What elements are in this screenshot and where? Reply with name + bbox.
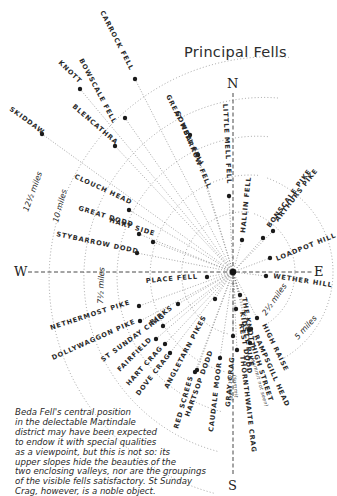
sight-line (170, 272, 233, 353)
summit-dot (123, 116, 127, 120)
fell-label: PLACE FELL (145, 272, 198, 285)
summit-dot (261, 236, 265, 240)
summit-dot (218, 356, 222, 360)
diagram-title: Principal Fells (184, 44, 287, 60)
description-note: Beda Fell's central position in the dele… (15, 408, 245, 496)
fell-label: CLOUCH HEAD (73, 173, 133, 207)
sight-line (139, 234, 233, 272)
sight-line (220, 272, 233, 358)
fell-label: HALLIN FELL (239, 176, 253, 233)
compass-east: E (314, 264, 324, 279)
sight-line (233, 258, 270, 272)
summit-dot (213, 297, 217, 301)
fell-label: SKIDDAW (8, 105, 46, 136)
viewpoint-marker (230, 269, 236, 275)
summit-dot (176, 302, 180, 306)
diagram-stage: CARROCK FELLBOWSCALE FELLKNOTTBLENCATHRA… (0, 0, 337, 496)
summit-dot (78, 87, 82, 91)
note-line: Crag, however, is a noble object. (15, 487, 245, 496)
sight-line (125, 118, 233, 272)
ring-label: 7½ miles (96, 267, 106, 304)
summit-dot (163, 342, 167, 346)
fell-label: BIRKS (148, 304, 174, 327)
summit-dot (137, 304, 141, 308)
summit-dot (238, 293, 242, 297)
fell-label: ARTHURS PIKE (273, 167, 319, 223)
ring-label: 5 miles (293, 314, 319, 342)
summit-dot (264, 274, 268, 278)
sight-line (153, 242, 233, 272)
summit-dot (227, 194, 231, 198)
sight-line (129, 210, 233, 272)
summit-dot (193, 370, 197, 374)
fell-label: LOADPOT HILL (275, 231, 337, 263)
summit-dot (240, 238, 244, 242)
fell-label: STYBARROW DODD (56, 230, 140, 255)
summit-dot (138, 319, 142, 323)
summit-dot (255, 316, 259, 320)
summit-dot (205, 275, 209, 279)
summit-dot (133, 77, 137, 81)
fell-label: GOWBARROW FELL (173, 110, 213, 190)
summit-dot (234, 307, 238, 311)
ring-label: 10 miles (51, 188, 69, 223)
fell-labels: CARROCK FELLBOWSCALE FELLKNOTTBLENCATHRA… (8, 9, 337, 453)
ring-label: 2½ miles (260, 282, 288, 317)
compass-west: W (14, 264, 27, 279)
ring-label: 12½ miles (21, 170, 44, 212)
compass-north: N (227, 76, 238, 91)
summit-dot (235, 348, 239, 352)
summit-dot (127, 208, 131, 212)
summit-dot (268, 256, 272, 260)
summit-dot (161, 324, 165, 328)
summit-dot (231, 334, 235, 338)
sight-line (233, 272, 266, 276)
sight-line (233, 231, 273, 272)
summit-dot (271, 229, 275, 233)
fell-label: CARROCK FELL (98, 9, 135, 72)
sight-line (137, 253, 233, 272)
fell-label: LITTLE MELL FELL (221, 104, 233, 185)
summit-dot (151, 240, 155, 244)
summit-dot (154, 337, 158, 341)
